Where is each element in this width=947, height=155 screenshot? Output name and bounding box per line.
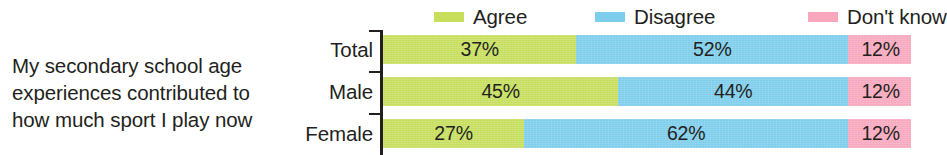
bar-segment-value: 12% — [861, 80, 899, 103]
bar-row: Total 37%52%12% — [0, 35, 911, 64]
axis-tick-total — [369, 30, 380, 32]
stacked-bar-total: 37%52%12% — [383, 35, 911, 64]
stacked-bar-male: 45%44%12% — [383, 77, 911, 106]
bar-segment-agree: 27% — [383, 119, 524, 148]
bar-segment-value: 27% — [434, 122, 472, 145]
bar-segment-agree: 45% — [383, 77, 618, 106]
bar-segment-value: 44% — [714, 80, 752, 103]
bar-segment-value: 52% — [693, 38, 731, 61]
bar-segment-dontknow: 12% — [848, 77, 911, 106]
bar-segment-value: 62% — [667, 122, 705, 145]
stacked-bar-female: 27%62%12% — [383, 119, 911, 148]
category-label-female: Female — [170, 119, 373, 148]
bar-segment-dontknow: 12% — [848, 119, 911, 148]
axis-tick-female — [369, 113, 380, 115]
bar-segment-value: 12% — [861, 38, 899, 61]
bar-segment-disagree: 52% — [576, 35, 848, 64]
category-label-total: Total — [170, 35, 373, 64]
bar-row: Male 45%44%12% — [0, 77, 911, 106]
bar-segment-value: 37% — [460, 38, 498, 61]
bar-segment-value: 12% — [861, 122, 899, 145]
bar-segment-disagree: 44% — [618, 77, 848, 106]
axis-tick-male — [369, 71, 380, 73]
bar-row: Female 27%62%12% — [0, 119, 911, 148]
bar-segment-disagree: 62% — [524, 119, 848, 148]
bar-segment-dontknow: 12% — [848, 35, 911, 64]
bar-segment-agree: 37% — [383, 35, 576, 64]
category-label-male: Male — [170, 77, 373, 106]
bar-segment-value: 45% — [481, 80, 519, 103]
